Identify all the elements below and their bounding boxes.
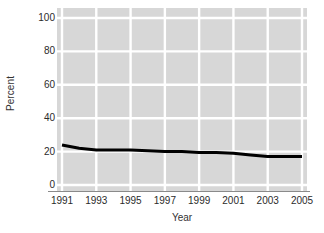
y-tick-label: 0: [29, 179, 55, 190]
y-tick-label: 20: [29, 146, 55, 157]
y-axis-title: Percent: [5, 62, 16, 126]
x-axis-line: [48, 191, 310, 192]
y-tick-label: 100: [29, 12, 55, 23]
plot-area: [57, 8, 307, 191]
x-axis-title: Year: [57, 212, 307, 223]
x-tick-label: 2005: [282, 195, 322, 206]
line-chart: Percent 020406080100 1991199319951997199…: [0, 0, 324, 233]
series-percent: [57, 8, 307, 191]
y-tick-label: 60: [29, 79, 55, 90]
y-tick-label: 40: [29, 112, 55, 123]
y-tick-label: 80: [29, 45, 55, 56]
